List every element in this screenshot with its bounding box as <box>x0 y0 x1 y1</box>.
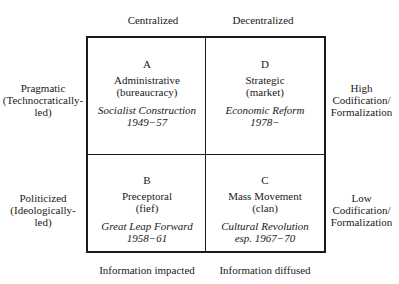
row-label-high-codification: High Codification/ Formalization <box>324 82 399 118</box>
row-label-line: (Technocratically- <box>0 94 86 106</box>
row-label-line: Formalization <box>324 106 399 118</box>
quadrant-years: 1978− <box>206 116 324 128</box>
quadrant-letter: A <box>88 58 206 70</box>
row-label-politicized: Politicized (Ideologically- led) <box>0 192 86 228</box>
row-label-line: Codification/ <box>324 204 399 216</box>
quadrant-subname: (clan) <box>206 202 324 214</box>
quadrant-c-mass-movement: C Mass Movement (clan) Cultural Revoluti… <box>206 174 324 244</box>
quadrant-a-administrative: A Administrative (bureaucracy) Socialist… <box>88 58 206 128</box>
quadrant-b-preceptoral: B Preceptoral (fief) Great Leap Forward … <box>88 174 206 244</box>
quadrant-subname: (market) <box>206 86 324 98</box>
quadrant-name: Administrative <box>88 74 206 86</box>
quadrant-d-strategic: D Strategic (market) Economic Reform 197… <box>206 58 324 128</box>
quadrant-years: esp. 1967−70 <box>206 232 324 244</box>
row-label-line: Formalization <box>324 216 399 228</box>
quadrant-period: Great Leap Forward <box>88 220 206 232</box>
quadrant-subname: (bureaucracy) <box>88 86 206 98</box>
quadrant-subname: (fief) <box>88 202 206 214</box>
quadrant-years: 1958−61 <box>88 232 206 244</box>
row-label-line: Politicized <box>0 192 86 204</box>
quadrant-period: Socialist Construction <box>88 104 206 116</box>
column-label-information-impacted: Information impacted <box>88 264 206 276</box>
quadrant-letter: C <box>206 174 324 186</box>
row-label-line: High <box>324 82 399 94</box>
row-label-low-codification: Low Codification/ Formalization <box>324 192 399 228</box>
quadrant-name: Strategic <box>206 74 324 86</box>
quadrant-name: Mass Movement <box>206 190 324 202</box>
column-label-centralized: Centralized <box>98 14 208 26</box>
quadrant-period: Cultural Revolution <box>206 220 324 232</box>
row-label-pragmatic: Pragmatic (Technocratically- led) <box>0 82 86 118</box>
row-label-line: Pragmatic <box>0 82 86 94</box>
quadrant-grid: A Administrative (bureaucracy) Socialist… <box>86 36 326 253</box>
row-label-line: Codification/ <box>324 94 399 106</box>
quadrant-letter: D <box>206 58 324 70</box>
row-label-line: Low <box>324 192 399 204</box>
row-label-line: (Ideologically- <box>0 204 86 216</box>
quadrant-years: 1949−57 <box>88 116 206 128</box>
column-label-information-diffused: Information diffused <box>206 264 324 276</box>
horizontal-divider <box>88 154 324 155</box>
column-label-decentralized: Decentralized <box>208 14 318 26</box>
quadrant-period: Economic Reform <box>206 104 324 116</box>
row-label-line: led) <box>0 216 86 228</box>
row-label-line: led) <box>0 106 86 118</box>
quadrant-name: Preceptoral <box>88 190 206 202</box>
quadrant-letter: B <box>88 174 206 186</box>
